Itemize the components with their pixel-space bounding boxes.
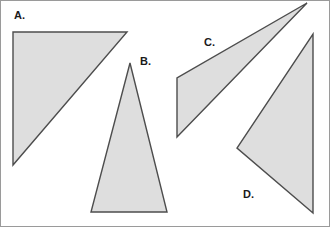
triangle-b-label: B. [140, 55, 151, 67]
triangles-diagram: A.B.C.D. [0, 0, 330, 227]
shapes-group [13, 3, 313, 213]
triangle-a-label: A. [14, 9, 25, 21]
triangle-c-label: C. [204, 36, 215, 48]
triangle-b [91, 63, 167, 212]
triangle-d-label: D. [243, 188, 254, 200]
figure-canvas: A.B.C.D. [0, 0, 330, 227]
